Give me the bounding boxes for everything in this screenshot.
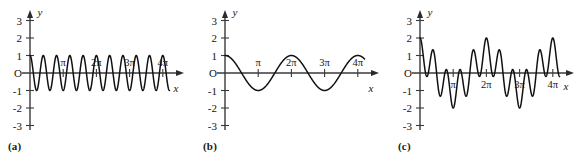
- x-axis-arrow: [176, 70, 184, 76]
- x-axis-arrow: [566, 70, 574, 76]
- panel-caption-a: (a): [8, 140, 21, 152]
- y-label-neg2: -2: [403, 102, 412, 114]
- y-label-2: 2: [407, 32, 413, 44]
- y-label-1: 1: [407, 50, 413, 62]
- axes-b: [217, 10, 379, 130]
- plot-a: 3 2 1 O -1 -2 -3 π 2π 3π 4π y x: [0, 0, 195, 140]
- y-label-1: 1: [17, 50, 23, 62]
- y-label-neg2: -2: [13, 102, 22, 114]
- y-label-neg2: -2: [208, 102, 217, 114]
- x-label-4pi: 4π: [158, 57, 169, 68]
- y-label-origin: O: [404, 67, 412, 79]
- y-label-2: 2: [17, 32, 23, 44]
- x-label-pi: π: [451, 79, 457, 90]
- y-label-neg1: -1: [403, 85, 412, 97]
- y-label-neg3: -3: [208, 120, 218, 132]
- y-axis-arrow: [27, 10, 33, 18]
- y-axis-arrow: [222, 10, 228, 18]
- x-label-3pi: 3π: [319, 57, 330, 68]
- x-axis-arrow: [371, 70, 379, 76]
- y-axis-label: y: [37, 6, 43, 18]
- y-label-1: 1: [212, 50, 218, 62]
- x-label-2pi: 2π: [91, 57, 102, 68]
- tick-labels-a: 3 2 1 O -1 -2 -3 π 2π 3π 4π y x: [13, 6, 179, 132]
- y-axis-label: y: [232, 6, 238, 18]
- y-label-neg3: -3: [13, 120, 23, 132]
- y-label-origin: O: [209, 67, 217, 79]
- panel-b: 3 2 1 O -1 -2 -3 π 2π 3π 4π y x (b): [195, 0, 390, 163]
- tick-labels-b: 3 2 1 O -1 -2 -3 π 2π 3π 4π y x: [208, 6, 374, 132]
- x-axis-label: x: [563, 80, 569, 92]
- y-label-3: 3: [212, 15, 218, 27]
- y-label-neg3: -3: [403, 120, 413, 132]
- x-label-pi: π: [256, 57, 262, 68]
- y-label-neg1: -1: [208, 85, 217, 97]
- panel-caption-c: (c): [398, 140, 411, 152]
- panel-a: 3 2 1 O -1 -2 -3 π 2π 3π 4π y x (a): [0, 0, 195, 163]
- panel-caption-b: (b): [203, 140, 217, 152]
- y-axis-label: y: [427, 6, 433, 18]
- figure-row: 3 2 1 O -1 -2 -3 π 2π 3π 4π y x (a): [0, 0, 584, 163]
- x-axis-label: x: [173, 82, 179, 94]
- x-label-4pi: 4π: [353, 57, 364, 68]
- x-label-4pi: 4π: [548, 79, 559, 90]
- x-label-2pi: 2π: [481, 79, 492, 90]
- y-label-2: 2: [212, 32, 218, 44]
- x-label-pi: π: [61, 57, 67, 68]
- y-label-3: 3: [407, 15, 413, 27]
- x-axis-label: x: [368, 82, 374, 94]
- plot-c: 3 2 1 O -1 -2 -3 π 2π 3π 4π y x: [390, 0, 584, 140]
- y-axis-arrow: [417, 10, 423, 18]
- plot-b: 3 2 1 O -1 -2 -3 π 2π 3π 4π y x: [195, 0, 390, 140]
- y-label-neg1: -1: [13, 85, 22, 97]
- y-label-3: 3: [17, 15, 23, 27]
- y-label-origin: O: [14, 67, 22, 79]
- panel-c: 3 2 1 O -1 -2 -3 π 2π 3π 4π y x (c): [390, 0, 584, 163]
- x-label-2pi: 2π: [286, 57, 297, 68]
